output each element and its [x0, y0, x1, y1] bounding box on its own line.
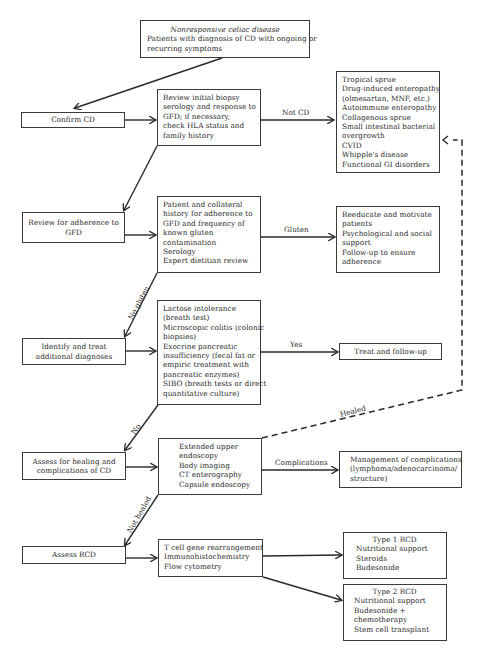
- eval-line: serology and response to: [163, 102, 255, 111]
- eval-line: CT enterography: [179, 470, 256, 479]
- step-label: Review for adherence to: [27, 218, 120, 227]
- outcome-line: Stem cell transplant: [354, 625, 441, 634]
- step-label: GFD: [27, 228, 120, 237]
- step-confirm-cd: Confirm CD: [21, 112, 125, 128]
- outcome-line: Collagenous sprue: [342, 113, 434, 122]
- eval-line: GFD and frequency of: [163, 219, 255, 228]
- eval-line: Exocrine pancreatic: [163, 342, 255, 351]
- eval-line: history for adherence to: [163, 209, 255, 218]
- outcome-treat-follow-up: Treat and follow-up: [339, 343, 442, 360]
- eval-review-biopsy: Review initial biopsy serology and respo…: [157, 89, 261, 146]
- step-label: additional diagnoses: [27, 352, 121, 361]
- eval-line: Lactose intolerance: [163, 304, 255, 313]
- edge-label-not-cd: Not CD: [282, 108, 309, 117]
- outcome-line: Steroids: [356, 554, 441, 563]
- eval-healing-imaging: Extended upper endoscopy Body imaging CT…: [158, 438, 262, 495]
- outcome-line: Small intestinal bacterial: [342, 122, 434, 131]
- outcome-line: Psychological and social: [342, 229, 434, 238]
- eval-additional-diagnoses: Lactose intolerance (breath test) Micros…: [157, 300, 261, 405]
- outcome-line: patients: [342, 219, 434, 228]
- eval-line: endoscopy: [179, 451, 256, 460]
- eval-line: SIBO (breath tests or direct: [163, 379, 255, 388]
- outcome-line: overgrowth: [342, 131, 434, 140]
- outcome-line: Nutritional support: [354, 596, 441, 605]
- step-assess-rcd: Assess RCD: [22, 546, 126, 564]
- eval-line: Patient and collateral: [163, 200, 255, 209]
- eval-line: Body imaging: [179, 461, 256, 470]
- outcome-line: support: [342, 238, 434, 247]
- outcome-line: Functional GI disorders: [342, 160, 434, 169]
- eval-line: family history: [163, 131, 255, 140]
- eval-line: Expert dietitian review: [163, 256, 255, 265]
- eval-line: Flow cytometry: [164, 562, 257, 571]
- eval-line: Microscopic colitis (colonic: [163, 323, 255, 332]
- eval-line: known gluten: [163, 228, 255, 237]
- start-box-nonresponsive-celiac: Nonresponsive celiac disease Patients wi…: [140, 20, 310, 58]
- eval-line: (breath test): [163, 313, 255, 322]
- step-review-adherence: Review for adherence to GFD: [22, 212, 125, 243]
- eval-adherence-history: Patient and collateral history for adher…: [157, 196, 261, 273]
- eval-line: insufficiency (fecal fat or: [163, 351, 255, 360]
- step-label: Assess RCD: [27, 550, 121, 559]
- outcome-line: Management of complications: [350, 455, 456, 464]
- outcome-line: Follow-up to ensure: [342, 248, 434, 257]
- edge-label-complications: Complications: [275, 458, 328, 467]
- outcome-management-complications: Management of complications (lymphoma/ad…: [339, 451, 462, 488]
- eval-line: empiric treatment with: [163, 360, 255, 369]
- edge-label-gluten: Gluten: [284, 225, 309, 234]
- outcome-title: Type 1 RCD: [348, 535, 441, 544]
- eval-line: Serology: [163, 247, 255, 256]
- eval-line: pancreatic enzymes): [163, 370, 255, 379]
- eval-line: Review initial biopsy: [163, 93, 255, 102]
- outcome-line: chemotherapy: [354, 615, 441, 624]
- eval-line: contamination: [163, 238, 255, 247]
- outcome-title: Type 2 RCD: [348, 587, 441, 596]
- start-title: Nonresponsive celiac disease: [147, 25, 303, 34]
- eval-line: Immunohistochemistry: [164, 552, 257, 561]
- outcome-line: structure): [350, 474, 456, 483]
- step-label: Confirm CD: [26, 115, 120, 124]
- outcome-type2-rcd: Type 2 RCD Nutritional support Budesonid…: [343, 584, 447, 641]
- eval-rcd-tests: T cell gene rearrangement Immunohistoche…: [158, 539, 263, 577]
- step-label: Identify and treat: [27, 342, 121, 351]
- eval-line: check HLA status and: [163, 121, 255, 130]
- eval-line: T cell gene rearrangement: [164, 543, 257, 552]
- outcome-line: CVID: [342, 141, 434, 150]
- outcome-line: (lymphoma/adenocarcinoma/: [350, 464, 456, 473]
- step-label: complications of CD: [27, 466, 121, 475]
- outcome-line: Whipple's disease: [342, 150, 434, 159]
- eval-line: biopsies): [163, 332, 255, 341]
- outcome-line: Tropical sprue: [342, 75, 434, 84]
- step-label: Assess for healing and: [27, 457, 121, 466]
- outcome-line: Treat and follow-up: [344, 347, 437, 356]
- edge-label-yes: Yes: [290, 340, 302, 349]
- step-assess-healing: Assess for healing and complications of …: [22, 452, 126, 480]
- start-text-1: Patients with diagnosis of CD with ongoi…: [147, 34, 303, 43]
- eval-line: GFD; if necessary,: [163, 112, 255, 121]
- eval-line: Capsule endoscopy: [179, 480, 256, 489]
- outcome-line: Budesonide +: [354, 606, 441, 615]
- outcome-not-cd-differential: Tropical sprue Drug-induced enteropathy …: [336, 71, 440, 173]
- outcome-line: Drug-induced enteropathy: [342, 84, 434, 93]
- outcome-gluten-reeducate: Reeducate and motivate patients Psycholo…: [336, 206, 440, 273]
- outcome-line: Nutritional support: [356, 544, 441, 553]
- eval-line: quantitative culture): [163, 389, 255, 398]
- step-identify-additional-diagnoses: Identify and treat additional diagnoses: [22, 338, 126, 365]
- outcome-line: adherence: [342, 257, 434, 266]
- outcome-line: Budesonide: [356, 563, 441, 572]
- outcome-line: Reeducate and motivate: [342, 210, 434, 219]
- eval-line: Extended upper: [179, 442, 256, 451]
- outcome-line: Autoimmune enteropathy: [342, 103, 434, 112]
- outcome-line: (olmesartan, MNF, etc.): [342, 94, 434, 103]
- start-text-2: recurring symptoms: [147, 44, 303, 53]
- outcome-type1-rcd: Type 1 RCD Nutritional support Steroids …: [343, 532, 447, 579]
